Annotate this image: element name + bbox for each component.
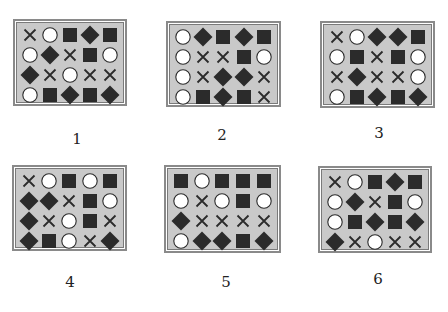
circle-icon [20, 45, 40, 65]
diamond-icon [19, 191, 39, 211]
square-icon [100, 25, 120, 45]
diamond-icon [367, 87, 387, 107]
square-icon [39, 231, 59, 251]
circle-icon [173, 67, 193, 87]
square-icon [171, 171, 191, 191]
panel-3[interactable] [320, 21, 435, 108]
cross-icon [192, 191, 212, 211]
diamond-icon [192, 231, 212, 251]
circle-icon [408, 47, 428, 67]
panel-grid [16, 22, 124, 103]
square-icon [254, 171, 274, 191]
cross-icon [20, 25, 40, 45]
diamond-icon [367, 27, 387, 47]
square-icon [405, 172, 425, 192]
square-icon [80, 45, 100, 65]
diamond-icon [19, 231, 39, 251]
panel-label-2[interactable]: 2 [207, 126, 237, 144]
panel-label-5[interactable]: 5 [211, 273, 241, 291]
square-icon [347, 87, 367, 107]
panel-4[interactable] [12, 165, 127, 251]
diamond-icon [213, 67, 233, 87]
diamond-icon [345, 192, 365, 212]
circle-icon [173, 87, 193, 107]
circle-icon [212, 191, 232, 211]
diamond-icon [40, 45, 60, 65]
panel-label-6[interactable]: 6 [363, 270, 393, 288]
cross-icon [100, 65, 120, 85]
panel-5[interactable] [164, 165, 281, 253]
circle-icon [59, 231, 79, 251]
circle-icon [365, 232, 385, 252]
square-icon [365, 172, 385, 192]
circle-icon [254, 47, 274, 67]
square-icon [388, 87, 408, 107]
cross-icon [345, 232, 365, 252]
circle-icon [345, 172, 365, 192]
diamond-icon [325, 232, 345, 252]
cross-icon [254, 87, 274, 107]
square-icon [254, 27, 274, 47]
circle-icon [39, 171, 59, 191]
cross-icon [100, 211, 120, 231]
diamond-icon [100, 85, 120, 105]
diamond-icon [20, 65, 40, 85]
circle-icon [60, 65, 80, 85]
square-icon [80, 85, 100, 105]
diamond-icon [213, 87, 233, 107]
square-icon [59, 171, 79, 191]
circle-icon [327, 47, 347, 67]
cross-icon [388, 67, 408, 87]
square-icon [233, 171, 253, 191]
panel-6[interactable] [318, 166, 432, 253]
square-icon [193, 87, 213, 107]
circle-icon [100, 45, 120, 65]
diamond-icon [193, 27, 213, 47]
cross-icon [254, 211, 274, 231]
panel-2[interactable] [166, 21, 281, 107]
square-icon [408, 27, 428, 47]
cross-icon [365, 192, 385, 212]
diamond-icon [234, 27, 254, 47]
diamond-icon [365, 212, 385, 232]
panel-label-1[interactable]: 1 [62, 130, 92, 148]
square-icon [40, 85, 60, 105]
diamond-icon [408, 87, 428, 107]
circle-icon [40, 25, 60, 45]
circle-icon [173, 27, 193, 47]
panel-grid [169, 24, 278, 104]
cross-icon [254, 67, 274, 87]
panel-label-3[interactable]: 3 [364, 124, 394, 142]
panel-1[interactable] [13, 19, 127, 106]
diamond-icon [80, 25, 100, 45]
cross-icon [325, 172, 345, 192]
cross-icon [367, 47, 387, 67]
square-icon [213, 27, 233, 47]
square-icon [80, 211, 100, 231]
circle-icon [80, 171, 100, 191]
circle-icon [325, 192, 345, 212]
panel-grid [323, 24, 432, 105]
square-icon [212, 171, 232, 191]
cross-icon [192, 211, 212, 231]
diamond-icon [388, 27, 408, 47]
circle-icon [408, 67, 428, 87]
panel-label-4[interactable]: 4 [55, 273, 85, 291]
cross-icon [385, 232, 405, 252]
square-icon [388, 47, 408, 67]
circle-icon [405, 192, 425, 212]
circle-icon [171, 191, 191, 211]
cross-icon [19, 171, 39, 191]
circle-icon [100, 191, 120, 211]
circle-icon [59, 211, 79, 231]
diamond-icon [254, 231, 274, 251]
diamond-icon [60, 85, 80, 105]
cross-icon [233, 211, 253, 231]
cross-icon [193, 47, 213, 67]
diamond-icon [100, 231, 120, 251]
circle-icon [173, 47, 193, 67]
circle-icon [192, 171, 212, 191]
cross-icon [60, 45, 80, 65]
cross-icon [367, 67, 387, 87]
circle-icon [347, 27, 367, 47]
